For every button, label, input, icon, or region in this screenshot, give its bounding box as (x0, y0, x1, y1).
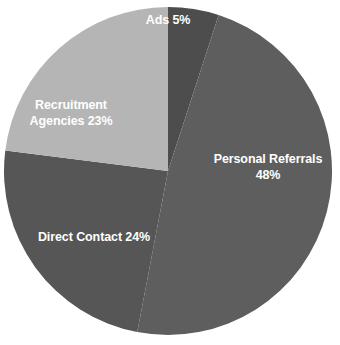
pie-chart: Ads 5% Recruitment Agencies 23% Personal… (0, 0, 340, 345)
pie-slice-recruitment-agencies (5, 7, 168, 171)
pie-slice-group (4, 7, 332, 335)
pie-chart-canvas (0, 0, 340, 345)
